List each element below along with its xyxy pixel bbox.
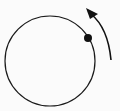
circle-path — [5, 16, 95, 106]
moving-point — [84, 34, 92, 42]
counterclockwise-arrow-icon — [86, 8, 111, 60]
rotation-diagram — [0, 0, 120, 111]
